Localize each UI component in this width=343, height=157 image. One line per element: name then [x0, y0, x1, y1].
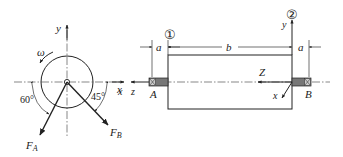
dim-a-left-label: a	[156, 41, 162, 53]
force-A-label: FA	[25, 139, 38, 153]
y-axis-label: y	[55, 22, 61, 34]
angle-60-label: 60°	[20, 94, 34, 105]
far-left-x-label: x	[117, 86, 123, 97]
section-1-label: ①	[164, 27, 176, 42]
shaft-diagram: y x ω FA FB 60° 45° x z	[0, 0, 343, 157]
section-2-label: ②	[286, 7, 298, 22]
omega-label: ω	[37, 46, 45, 58]
shaft-side-view: x z A B Z x y ① ②	[117, 7, 330, 109]
z-axis-label: Z	[259, 66, 266, 78]
force-B-label: FB	[109, 126, 122, 140]
x-axis-arrow-right	[282, 82, 292, 98]
bearing-A	[149, 78, 168, 86]
angle-45-label: 45°	[91, 91, 105, 102]
support-A-label: A	[149, 88, 157, 100]
dim-a-right-label: a	[298, 41, 304, 53]
angle-60-arc	[32, 84, 49, 114]
support-B-label: B	[305, 88, 312, 100]
x-axis-label-right: x	[272, 90, 278, 101]
dim-b-label: b	[226, 41, 232, 53]
force-B-arrow	[67, 82, 108, 125]
cross-section-view: y x ω FA FB 60° 45°	[14, 22, 124, 153]
bearing-B	[292, 78, 311, 86]
force-A-arrow	[40, 82, 67, 135]
far-left-z-label: z	[130, 86, 135, 97]
